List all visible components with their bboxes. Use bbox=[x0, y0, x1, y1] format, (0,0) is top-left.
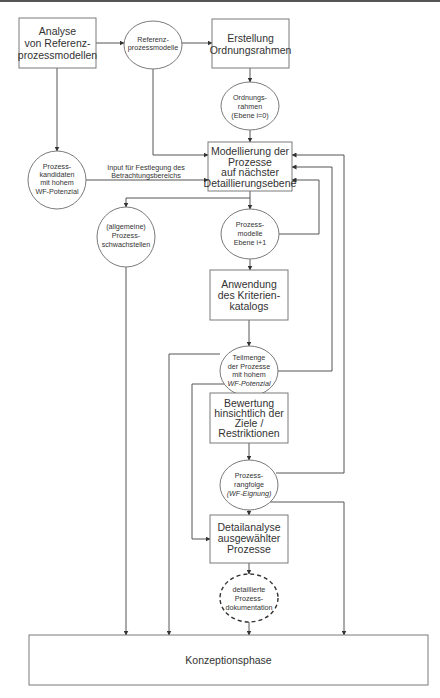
edge-label-line: Betrachtungsbereichs bbox=[111, 171, 181, 180]
node-konzeption: Konzeptionsphase bbox=[29, 635, 428, 685]
node-text: prozessmodellen bbox=[18, 49, 98, 61]
node-text: mit hohem bbox=[232, 370, 266, 379]
node-text: Prozesse bbox=[227, 543, 271, 555]
node-teilmenge: Teilmenge der Prozesse mit hohem WF-Pote… bbox=[220, 346, 278, 396]
node-text: detaillierte bbox=[233, 585, 266, 594]
node-text: katalogs bbox=[229, 300, 268, 312]
edge-label-input: Input für Festlegung des Betrachtungsber… bbox=[107, 163, 185, 180]
edges bbox=[57, 43, 344, 635]
node-text: rangfolge bbox=[234, 480, 264, 489]
node-text: WF-Potenzial bbox=[35, 187, 79, 196]
process-flow-diagram: Input für Festlegung des Betrachtungsber… bbox=[0, 0, 440, 698]
node-text: Prozess- bbox=[235, 594, 264, 603]
node-text: Teilmenge bbox=[233, 353, 266, 362]
node-text: Ordnungsrahmen bbox=[210, 44, 292, 56]
edge-teilmenge-feedback bbox=[278, 167, 332, 371]
node-erstellung: Erstellung Ordnungsrahmen bbox=[210, 19, 292, 68]
node-kandidaten: Prozess- kandidaten mit hohem WF-Potenzi… bbox=[28, 151, 86, 209]
node-text: Konzeptionsphase bbox=[185, 654, 272, 666]
node-schwachstellen: (allgemeine) Prozess- schwachstellen bbox=[97, 207, 155, 267]
node-text: Prozess- bbox=[112, 231, 141, 240]
edge-modellierung-schwachstellen bbox=[126, 198, 250, 207]
node-text: Ebene i+1 bbox=[234, 238, 267, 247]
node-text: mit hohem bbox=[40, 178, 74, 187]
node-text: WF-Potenzial bbox=[227, 379, 271, 388]
node-text: (Ebene i=0) bbox=[231, 111, 268, 120]
node-bewertung: Bewertung hinsichtlich der Ziele / Restr… bbox=[210, 393, 288, 443]
edge-referenz-modellierung bbox=[153, 69, 208, 155]
node-prozessmodelle: Prozess- modelle Ebene i+1 bbox=[221, 209, 279, 259]
node-text: schwachstellen bbox=[102, 240, 151, 249]
node-ordnungsrahmen: Ordnungs- rahmen (Ebene i=0) bbox=[221, 82, 279, 130]
node-text: Restriktionen bbox=[218, 427, 279, 439]
node-rangfolge: Prozess- rangfolge (WF-Eignung) bbox=[220, 460, 278, 510]
node-text: (allgemeine) bbox=[106, 222, 146, 231]
node-text: Prozess- bbox=[235, 471, 264, 480]
node-text: (WF-Eignung) bbox=[227, 489, 272, 498]
node-text: Prozess- bbox=[236, 220, 265, 229]
node-analyse: Analyse von Referenz- prozessmodellen bbox=[18, 18, 98, 68]
node-text: Erstellung bbox=[227, 32, 274, 44]
node-text: von Referenz- bbox=[25, 37, 91, 49]
node-detailanalyse: Detailanalyse ausgewählter Prozesse bbox=[210, 515, 288, 563]
node-modellierung: Modellierung der Prozesse auf nächster D… bbox=[204, 142, 297, 191]
node-text: Ordnungs- bbox=[233, 93, 268, 102]
node-text: dokumentation bbox=[225, 603, 272, 612]
node-text: Analyse bbox=[39, 25, 77, 37]
node-dokumentation: detaillierte Prozess- dokumentation bbox=[220, 574, 278, 622]
node-text: prozessmodelle bbox=[128, 43, 178, 52]
node-text: Detaillierungsebene bbox=[204, 177, 297, 189]
node-text: modelle bbox=[237, 229, 262, 238]
node-text: rahmen bbox=[238, 102, 262, 111]
node-referenz: Referenz- prozessmodelle bbox=[124, 21, 182, 69]
node-anwendung: Anwendung des Kriterien- katalogs bbox=[210, 270, 288, 320]
